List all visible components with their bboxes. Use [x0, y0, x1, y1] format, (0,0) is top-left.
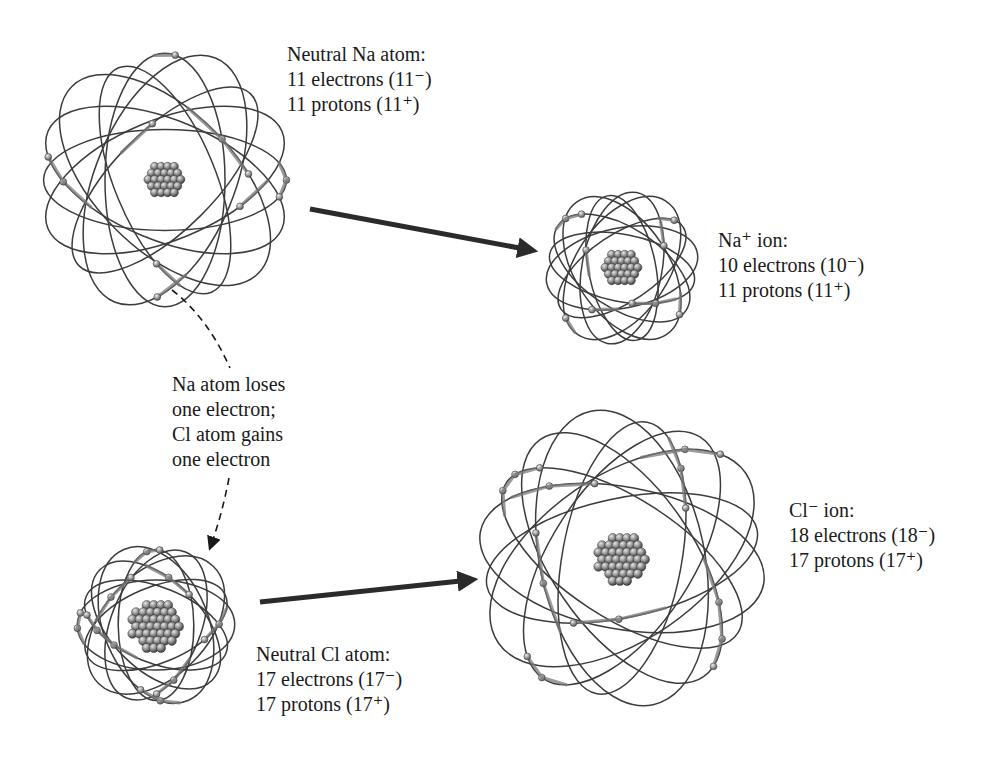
- nucleus-icon: [594, 534, 650, 586]
- electron-trail: [536, 533, 544, 584]
- electron-trail: [704, 559, 719, 602]
- transfer-note-line: one electron;: [172, 397, 285, 422]
- atoms-group: [22, 31, 792, 721]
- electron-icon: [671, 217, 678, 224]
- electron-icon: [137, 686, 144, 693]
- electron-icon: [149, 120, 156, 127]
- cl-atom-model: [61, 529, 250, 721]
- electron-icon: [578, 211, 585, 218]
- electron-icon: [128, 574, 135, 581]
- electron-icon: [589, 306, 596, 313]
- electron-icon: [717, 451, 724, 458]
- cl-ion-protons: 17 protons (17⁺): [789, 548, 935, 573]
- electron-icon: [676, 311, 683, 318]
- electron-icon: [154, 294, 161, 301]
- nucleus-icon: [128, 601, 184, 653]
- na-atom-model: [22, 31, 307, 328]
- na-atom-electrons: 11 electrons (11⁻): [287, 67, 432, 92]
- transfer-dashed-line-lower: [210, 478, 229, 548]
- electron-icon: [45, 154, 52, 161]
- electron-icon: [156, 547, 163, 554]
- electron-trail: [619, 608, 666, 619]
- na-ion-electrons: 10 electrons (10⁻): [718, 253, 864, 278]
- cl-ion-title: Cl⁻ ion:: [789, 498, 935, 523]
- electron-icon: [583, 247, 590, 254]
- na-ion-title: Na⁺ ion:: [718, 228, 864, 253]
- electron-trail: [114, 645, 136, 658]
- arrows-group: [260, 209, 530, 602]
- cl-atom-protons: 17 protons (17⁺): [256, 692, 402, 717]
- transfer-note-line: one electron: [172, 447, 285, 472]
- cl-atom-title: Neutral Cl atom:: [256, 642, 402, 667]
- electron-icon: [276, 194, 283, 201]
- cl-to-cl-ion-arrow-icon: [260, 580, 470, 602]
- na-ion-protons: 11 protons (11⁺): [718, 278, 864, 303]
- electron-trail: [719, 601, 722, 639]
- electron-icon: [591, 480, 598, 487]
- transfer-note-line: Cl atom gains: [172, 422, 285, 447]
- electron-icon: [153, 260, 160, 267]
- nucleus-icon: [144, 162, 185, 196]
- electron-icon: [710, 663, 717, 670]
- electron-icon: [245, 171, 252, 178]
- electron-icon: [186, 591, 193, 598]
- cl-atom-electrons: 17 electrons (17⁻): [256, 667, 402, 692]
- cl-ion-label: Cl⁻ ion: 18 electrons (18⁻) 17 protons (…: [789, 498, 935, 573]
- electron-trail: [512, 486, 550, 497]
- na-atom-label: Neutral Na atom: 11 electrons (11⁻) 11 p…: [287, 42, 432, 117]
- na-ion-label: Na⁺ ion: 10 electrons (10⁻) 11 protons (…: [718, 228, 864, 303]
- electron-icon: [570, 620, 577, 627]
- na-atom-title: Neutral Na atom:: [287, 42, 432, 67]
- cl-atom-label: Neutral Cl atom: 17 electrons (17⁻) 17 p…: [256, 642, 402, 717]
- electron-icon: [682, 505, 689, 512]
- electron-icon: [533, 530, 540, 537]
- nucleus-icon: [601, 250, 642, 284]
- electron-icon: [536, 464, 543, 471]
- electron-icon: [660, 242, 667, 249]
- diagram-graphics: [0, 0, 994, 764]
- electron-icon: [237, 203, 244, 210]
- ion-formation-diagram: Neutral Na atom: 11 electrons (11⁻) 11 p…: [0, 0, 994, 764]
- electron-trail: [586, 250, 589, 275]
- electron-trail: [122, 124, 153, 153]
- electron-trail: [146, 566, 168, 578]
- electron-icon: [172, 52, 179, 59]
- electron-icon: [524, 653, 531, 660]
- electron-transfer-note: Na atom loses one electron; Cl atom gain…: [172, 372, 285, 472]
- electron-icon: [84, 612, 91, 619]
- electron-icon: [153, 691, 160, 698]
- electron-icon: [77, 610, 84, 617]
- na-to-na-ion-arrow-icon: [310, 209, 530, 250]
- electron-icon: [562, 315, 569, 322]
- electron-trail: [48, 157, 63, 182]
- cl-ion-model: [452, 394, 793, 722]
- electron-icon: [629, 300, 636, 307]
- na-atom-protons: 11 protons (11⁺): [287, 92, 432, 117]
- electron-icon: [201, 636, 208, 643]
- electron-trail: [527, 656, 542, 677]
- transfer-note-line: Na atom loses: [172, 372, 285, 397]
- cl-ion-electrons: 18 electrons (18⁻): [789, 523, 935, 548]
- electron-trail: [503, 491, 505, 516]
- na-ion-model: [536, 176, 708, 361]
- electron-trail: [714, 638, 723, 666]
